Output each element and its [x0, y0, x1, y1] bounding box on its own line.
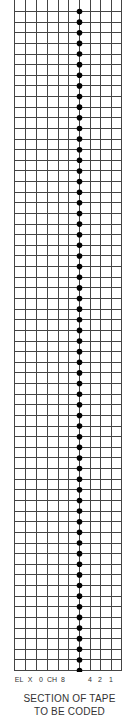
- channel-label-x: X: [28, 676, 33, 683]
- feed-hole-icon: [77, 200, 83, 206]
- feed-hole-icon: [77, 636, 83, 642]
- feed-hole-icon: [77, 668, 83, 672]
- feed-hole-icon: [77, 264, 83, 270]
- feed-hole-icon: [77, 94, 83, 100]
- feed-hole-icon: [77, 647, 83, 653]
- feed-hole-icon: [77, 147, 83, 153]
- feed-hole-icon: [77, 285, 83, 291]
- tape-grid: [0, 0, 139, 672]
- feed-hole-icon: [77, 158, 83, 164]
- feed-hole-icon: [77, 179, 83, 185]
- channel-label-4: 4: [88, 676, 92, 683]
- channel-label-ch: CH: [47, 676, 57, 683]
- channel-label-1: 1: [109, 676, 113, 683]
- feed-hole-icon: [77, 508, 83, 514]
- channel-labels: EL X 0 CH 8 4 2 1: [0, 676, 139, 688]
- feed-hole-icon: [77, 274, 83, 280]
- feed-hole-icon: [77, 370, 83, 376]
- feed-hole-icon: [77, 540, 83, 546]
- feed-hole-icon: [77, 62, 83, 68]
- feed-hole-icon: [77, 104, 83, 110]
- feed-hole-icon: [77, 72, 83, 78]
- feed-hole-icon: [77, 19, 83, 25]
- feed-hole-icon: [77, 115, 83, 121]
- feed-hole-icon: [77, 445, 83, 451]
- feed-hole-icon: [77, 413, 83, 419]
- feed-hole-icon: [77, 328, 83, 334]
- feed-hole-icon: [77, 189, 83, 195]
- feed-hole-icon: [77, 317, 83, 323]
- feed-hole-icon: [77, 519, 83, 525]
- feed-hole-icon: [77, 487, 83, 493]
- feed-hole-icon: [77, 296, 83, 302]
- feed-hole-icon: [77, 243, 83, 249]
- feed-hole-icon: [77, 338, 83, 344]
- feed-hole-icon: [77, 423, 83, 429]
- feed-hole-icon: [77, 83, 83, 89]
- feed-hole-icon: [77, 561, 83, 567]
- feed-hole-icon: [77, 232, 83, 238]
- feed-hole-icon: [77, 359, 83, 365]
- channel-label-el: EL: [15, 676, 24, 683]
- feed-hole-icon: [77, 530, 83, 536]
- feed-hole-icon: [77, 253, 83, 259]
- channel-label-8: 8: [61, 676, 65, 683]
- feed-hole-icon: [77, 41, 83, 47]
- feed-hole-icon: [77, 349, 83, 355]
- feed-hole-icon: [77, 455, 83, 461]
- feed-hole-icon: [77, 593, 83, 599]
- caption-line-1: SECTION OF TAPE: [0, 693, 139, 704]
- feed-hole-icon: [77, 476, 83, 482]
- feed-hole-icon: [77, 168, 83, 174]
- feed-hole-icon: [77, 625, 83, 631]
- feed-hole-icon: [77, 498, 83, 504]
- feed-hole-icon: [77, 136, 83, 142]
- feed-hole-icon: [77, 604, 83, 610]
- channel-label-0: 0: [39, 676, 43, 683]
- feed-hole-icon: [77, 657, 83, 663]
- feed-hole-icon: [77, 583, 83, 589]
- feed-hole-icon: [77, 615, 83, 621]
- feed-hole-icon: [77, 221, 83, 227]
- caption-line-2: TO BE CODED: [0, 706, 139, 717]
- channel-label-2: 2: [98, 676, 102, 683]
- feed-hole-icon: [77, 381, 83, 387]
- feed-hole-icon: [77, 211, 83, 217]
- feed-hole-icon: [77, 126, 83, 132]
- feed-hole-icon: [77, 434, 83, 440]
- feed-hole-icon: [77, 402, 83, 408]
- feed-hole-icon: [77, 306, 83, 312]
- feed-hole-icon: [77, 551, 83, 557]
- feed-hole-icon: [77, 466, 83, 472]
- feed-hole-icon: [77, 9, 83, 15]
- feed-hole-icon: [77, 51, 83, 57]
- feed-hole-icon: [77, 391, 83, 397]
- feed-hole-icon: [77, 30, 83, 36]
- feed-hole-icon: [77, 572, 83, 578]
